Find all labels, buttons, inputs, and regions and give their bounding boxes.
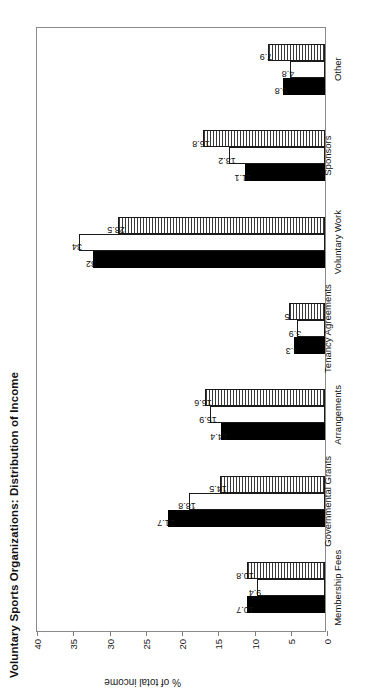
bar-value-label: 5 xyxy=(284,312,289,322)
tick-label: 0 xyxy=(322,639,333,644)
bars-layer: 10.79.410.8Membership Fees21.718.814.5Go… xyxy=(37,28,325,631)
tick-mark xyxy=(73,631,74,636)
bar-value-label: 32 xyxy=(86,259,96,269)
tick-label: 35 xyxy=(68,639,79,650)
bar-value-label: 15.9 xyxy=(199,415,217,425)
tick-mark xyxy=(291,631,292,636)
bar-value-label: 11.1 xyxy=(234,173,251,183)
tick-label: 20 xyxy=(177,639,188,650)
bar-value-label: 3.9 xyxy=(288,329,301,339)
bar: 15.9 xyxy=(210,406,325,423)
bar: 14.5 xyxy=(220,476,325,493)
category-label: Tenancy Agreements xyxy=(322,284,333,373)
bar-value-label: 13.2 xyxy=(219,156,237,166)
tick-label: 40 xyxy=(32,639,43,650)
tick-label: 25 xyxy=(140,639,151,650)
bar: 3.9 xyxy=(297,320,325,337)
tick-mark xyxy=(255,631,256,636)
bar-value-label: 4.8 xyxy=(282,69,295,79)
bar: 16.6 xyxy=(205,389,325,406)
bar-value-label: 21.7 xyxy=(157,518,175,528)
tick-label: 30 xyxy=(104,639,115,650)
bar: 16.8 xyxy=(203,130,325,147)
bar-value-label: 28.5 xyxy=(108,225,126,235)
bar: 4.8 xyxy=(290,61,325,78)
bar: 10.8 xyxy=(247,562,325,579)
bar: 5 xyxy=(289,303,325,320)
category-label: Arrangements xyxy=(332,385,343,445)
bar-value-label: 18.8 xyxy=(178,501,196,511)
bar-value-label: 10.8 xyxy=(236,571,254,581)
category-label: Membership Fees xyxy=(332,550,343,626)
bar: 18.8 xyxy=(189,493,325,510)
value-axis-title: % of total income xyxy=(104,677,181,688)
bar-value-label: 14.4 xyxy=(210,432,228,442)
bar: 14.4 xyxy=(221,423,325,440)
bar-group: 11.113.216.8Sponsors xyxy=(37,112,325,198)
bar: 32 xyxy=(93,251,325,268)
tick-mark xyxy=(37,631,38,636)
tick-mark xyxy=(146,631,147,636)
bar: 5.8 xyxy=(283,78,325,95)
tick-label: 5 xyxy=(285,639,296,644)
category-label: Other xyxy=(332,57,343,81)
bar-group: 5.84.87.9Other xyxy=(37,26,325,112)
tick-mark xyxy=(182,631,183,636)
category-label: Sponsors xyxy=(322,136,333,176)
tick-label: 10 xyxy=(249,639,260,650)
category-label: Voluntary Work xyxy=(332,210,343,274)
tick-mark xyxy=(327,631,328,636)
bar: 34 xyxy=(79,234,326,251)
bar: 11.1 xyxy=(245,164,325,181)
bar-value-label: 7.9 xyxy=(259,52,272,62)
bar-group: 14.415.916.6Arrangements xyxy=(37,372,325,458)
tick-mark xyxy=(218,631,219,636)
bar-group: 10.79.410.8Membership Fees xyxy=(37,545,325,631)
bar-value-label: 5.8 xyxy=(275,86,288,96)
bar-value-label: 14.5 xyxy=(209,484,227,494)
bar-value-label: 4.3 xyxy=(286,346,299,356)
bar: 21.7 xyxy=(168,510,325,527)
chart-title: Voluntary Sports Organizations: Distribu… xyxy=(8,372,20,678)
bar-value-label: 9.4 xyxy=(249,588,262,598)
bar: 7.9 xyxy=(268,44,325,61)
bar-value-label: 10.7 xyxy=(237,605,255,615)
bar-value-label: 34 xyxy=(71,242,81,252)
bar-value-label: 16.8 xyxy=(192,139,210,149)
rotated-figure: Voluntary Sports Organizations: Distribu… xyxy=(0,0,374,694)
tick-mark xyxy=(110,631,111,636)
bar: 28.5 xyxy=(118,217,325,234)
bar: 13.2 xyxy=(229,147,325,164)
bar-value-label: 16.6 xyxy=(194,398,212,408)
bar-group: 4.33.95Tenancy Agreements xyxy=(37,285,325,371)
bar-group: 21.718.814.5Governmental Grants xyxy=(37,458,325,544)
bar: 4.3 xyxy=(294,337,325,354)
category-label: Governmental Grants xyxy=(322,456,333,547)
plot-area: 0510152025303540 10.79.410.8Membership F… xyxy=(36,27,326,632)
bar: 9.4 xyxy=(257,579,325,596)
tick-label: 15 xyxy=(213,639,224,650)
bar: 10.7 xyxy=(247,596,325,613)
bar-group: 323428.5Voluntary Work xyxy=(37,199,325,285)
